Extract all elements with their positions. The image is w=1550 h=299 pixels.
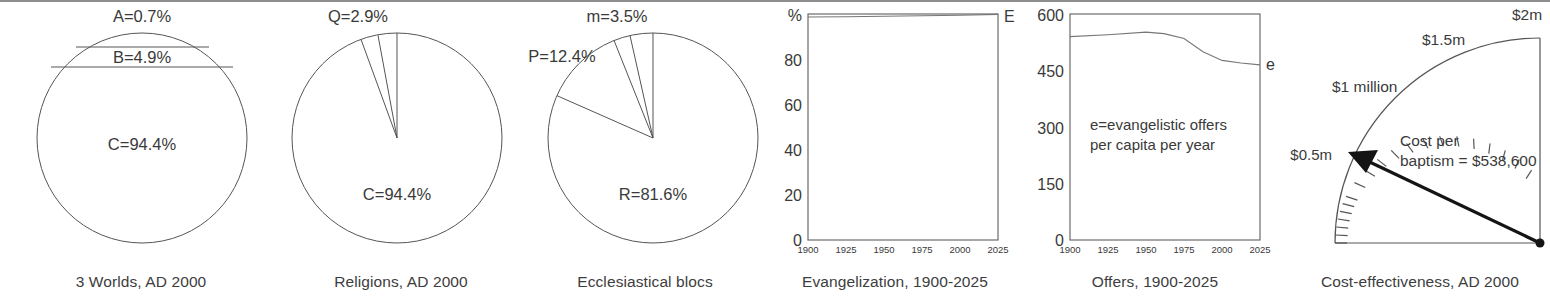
ytick-40: 40: [784, 142, 802, 159]
label-segment-c: C=94.4%: [363, 185, 432, 203]
label-segment-p: P=12.4%: [528, 47, 596, 65]
xtick-1975: 1975: [1173, 244, 1194, 255]
label-segment-a: A=0.7%: [113, 7, 172, 25]
note-line-1: e=evangelistic offers: [1090, 116, 1227, 133]
xtick-1975: 1975: [911, 244, 932, 255]
caption-ecclesiastical: Ecclesiastical blocs: [520, 273, 770, 291]
panel-cost: $0.5m $1 million $1.5m $2m Cost per bapt…: [1290, 0, 1550, 299]
pie-radius-m: [630, 36, 653, 139]
plot-frame: [808, 14, 998, 240]
label-segment-b: B=4.9%: [113, 48, 172, 66]
gauge-label-0-5m: $0.5m: [1290, 146, 1332, 163]
series-line-E: [808, 14, 998, 17]
cost-effectiveness-gauge: $0.5m $1 million $1.5m $2m Cost per bapt…: [1290, 0, 1550, 270]
ecclesiastical-pie-chart: m=3.5% P=12.4% R=81.6%: [520, 0, 770, 270]
ytick-percent: %: [788, 7, 802, 24]
panel-offers: 600 450 300 150 0 1900 1925 1950 1975 20…: [1020, 0, 1290, 299]
label-segment-r: R=81.6%: [619, 185, 688, 203]
label-segment-c: C=94.4%: [108, 135, 177, 153]
figure-strip: A=0.7% B=4.9% C=94.4% 3 Worlds, AD 2000 …: [0, 0, 1550, 299]
gauge-label-1m: $1 million: [1332, 78, 1397, 95]
religions-pie-chart: Q=2.9% C=94.4%: [282, 0, 520, 270]
gauge-label-2m: $2m: [1512, 6, 1542, 23]
caption-offers: Offers, 1900-2025: [1020, 273, 1290, 291]
gauge-needle: [1357, 156, 1540, 243]
offers-line-chart: 600 450 300 150 0 1900 1925 1950 1975 20…: [1020, 0, 1290, 270]
caption-evangelization: Evangelization, 1900-2025: [770, 273, 1020, 291]
ytick-450: 450: [1037, 63, 1064, 80]
caption-three-worlds: 3 Worlds, AD 2000: [0, 273, 282, 291]
pie-radius-q: [378, 35, 397, 138]
xtick-2025: 2025: [1249, 244, 1270, 255]
xtick-1900: 1900: [1059, 244, 1080, 255]
xtick-1900: 1900: [797, 244, 818, 255]
gauge-pivot-dot: [1536, 239, 1545, 248]
ytick-60: 60: [784, 97, 802, 114]
series-label-e: e: [1266, 56, 1275, 73]
xtick-2000: 2000: [1211, 244, 1232, 255]
series-line-e: [1070, 32, 1260, 65]
panel-religions: Q=2.9% C=94.4% Religions, AD 2000: [282, 0, 520, 299]
note-line-2: per capita per year: [1090, 136, 1215, 153]
ytick-20: 20: [784, 187, 802, 204]
ytick-300: 300: [1037, 120, 1064, 137]
series-label-E: E: [1004, 8, 1015, 25]
label-segment-m: m=3.5%: [587, 7, 648, 25]
xtick-2000: 2000: [949, 244, 970, 255]
ytick-80: 80: [784, 52, 802, 69]
xtick-2025: 2025: [987, 244, 1008, 255]
caption-religions: Religions, AD 2000: [282, 273, 520, 291]
label-segment-q: Q=2.9%: [328, 7, 388, 25]
evangelization-line-chart: % 80 60 40 20 0 1900 1925 1950 1975 2000…: [770, 0, 1020, 270]
xtick-1925: 1925: [1097, 244, 1118, 255]
ytick-600: 600: [1037, 7, 1064, 24]
caption-cost: Cost-effectiveness, AD 2000: [1290, 273, 1550, 291]
pie-radius-other: [361, 39, 397, 138]
xtick-1925: 1925: [835, 244, 856, 255]
panel-evangelization: % 80 60 40 20 0 1900 1925 1950 1975 2000…: [770, 0, 1020, 299]
gauge-note-line-1: Cost per: [1400, 132, 1459, 149]
three-worlds-chart: A=0.7% B=4.9% C=94.4%: [0, 0, 282, 270]
xtick-1950: 1950: [1135, 244, 1156, 255]
ytick-150: 150: [1037, 176, 1064, 193]
gauge-label-1-5m: $1.5m: [1422, 31, 1465, 48]
panel-ecclesiastical: m=3.5% P=12.4% R=81.6% Ecclesiastical bl…: [520, 0, 770, 299]
panel-three-worlds: A=0.7% B=4.9% C=94.4% 3 Worlds, AD 2000: [0, 0, 282, 299]
gauge-note-line-2: baptism = $538,600: [1400, 152, 1537, 169]
xtick-1950: 1950: [873, 244, 894, 255]
